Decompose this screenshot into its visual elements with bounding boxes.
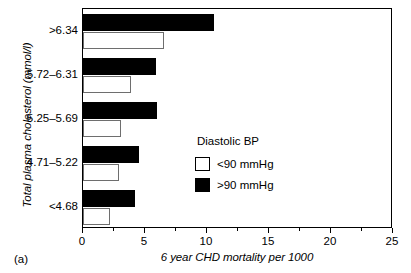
legend-entry: >90 mmHg <box>195 175 315 194</box>
x-axis-minor-tick <box>175 228 176 231</box>
bar <box>83 102 157 119</box>
bar <box>83 164 119 181</box>
x-axis-tick <box>144 228 145 233</box>
x-axis-tick-label: 25 <box>372 234 411 249</box>
bar <box>83 76 131 93</box>
bar <box>83 146 139 163</box>
x-axis-tick <box>82 228 83 233</box>
x-axis-minor-tick <box>361 228 362 231</box>
x-axis-tick-label: 15 <box>248 234 288 249</box>
bar <box>83 208 110 225</box>
y-axis-tick-label: <4.68 <box>49 199 78 213</box>
x-axis-tick-label: 5 <box>124 234 164 249</box>
bar <box>83 120 121 137</box>
x-axis-tick-label: 0 <box>62 234 102 249</box>
bar <box>83 32 164 49</box>
y-axis-tick-labels: >6.345.72–6.315.25–5.694.71–5.22<4.68 <box>30 8 82 228</box>
x-axis-tick <box>206 228 207 233</box>
x-axis-tick <box>392 228 393 233</box>
legend-entries: <90 mmHg>90 mmHg <box>195 154 315 194</box>
y-axis-tick-label: 4.71–5.22 <box>27 155 78 169</box>
bar <box>83 14 214 31</box>
x-axis-tick-label: 10 <box>186 234 226 249</box>
panel-label: (a) <box>14 252 28 266</box>
legend: Diastolic BP <90 mmHg>90 mmHg <box>195 134 315 196</box>
x-axis-minor-tick <box>299 228 300 231</box>
y-axis-tick-label: 5.25–5.69 <box>27 111 78 125</box>
x-axis-tick <box>268 228 269 233</box>
y-axis-tick-label: 5.72–6.31 <box>27 67 78 81</box>
x-axis-minor-tick <box>113 228 114 231</box>
legend-entry-label: >90 mmHg <box>217 178 274 192</box>
x-axis-minor-tick <box>237 228 238 231</box>
x-axis-tick-label: 20 <box>310 234 350 249</box>
figure: Total plasma cholesterol (mmol/l) >6.345… <box>0 0 411 273</box>
legend-entry-label: <90 mmHg <box>217 157 274 171</box>
black-square-icon <box>195 178 210 192</box>
legend-entry: <90 mmHg <box>195 154 315 173</box>
x-axis-tick <box>330 228 331 233</box>
plot-area: Diastolic BP <90 mmHg>90 mmHg <box>82 8 392 228</box>
white-square-icon <box>195 157 210 171</box>
bar <box>83 190 135 207</box>
x-axis-tick-labels: 0510152025 <box>82 234 392 249</box>
y-axis-tick-label: >6.34 <box>49 23 78 37</box>
bar <box>83 58 156 75</box>
legend-title: Diastolic BP <box>195 134 315 149</box>
x-axis-title: 6 year CHD mortality per 1000 <box>82 250 392 264</box>
